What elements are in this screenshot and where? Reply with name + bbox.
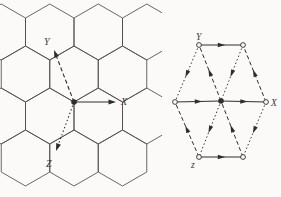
figure-background	[0, 0, 281, 197]
center-point	[218, 98, 224, 104]
lattice-site-tl	[197, 43, 202, 48]
lattice-site-tr	[241, 43, 246, 48]
lattice-site-l	[173, 100, 178, 105]
textbook-figure: YXZYXz	[0, 0, 281, 197]
origin-point	[71, 99, 77, 105]
lattice-site-r	[264, 100, 269, 105]
lattice-site-br	[241, 155, 246, 160]
axis-label-x-right: X	[270, 98, 278, 108]
figure-canvas: YXZYXz	[0, 0, 281, 197]
lattice-site-bl	[197, 155, 202, 160]
axis-label-z: Z	[46, 158, 52, 169]
axis-label-x: X	[120, 96, 128, 107]
axis-label-z-right: z	[190, 160, 195, 170]
